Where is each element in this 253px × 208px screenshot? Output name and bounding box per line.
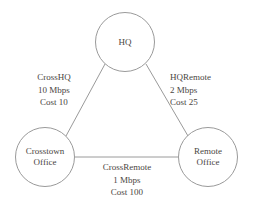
node-crosstown-label-line-1: Office bbox=[34, 157, 57, 168]
edge-label-hqremote-name: HQRemote bbox=[170, 71, 236, 84]
edge-label-crossremote-name: CrossRemote bbox=[85, 161, 169, 174]
edge-label-crossremote: CrossRemote 1 Mbps Cost 100 bbox=[85, 161, 169, 199]
node-remote-label-line-0: Remote bbox=[194, 146, 222, 157]
edge-label-crossremote-bandwidth: 1 Mbps bbox=[85, 174, 169, 187]
edge-label-crosshq: CrossHQ 10 Mbps Cost 10 bbox=[26, 71, 82, 109]
node-crosstown-office[interactable]: Crosstown Office bbox=[15, 127, 75, 187]
edge-label-hqremote-cost: Cost 25 bbox=[170, 96, 236, 109]
edge-label-hqremote: HQRemote 2 Mbps Cost 25 bbox=[170, 71, 236, 109]
edge-label-crosshq-name: CrossHQ bbox=[26, 71, 82, 84]
edge-label-crosshq-cost: Cost 10 bbox=[26, 96, 82, 109]
node-remote-label-line-1: Office bbox=[197, 157, 220, 168]
node-hq-label-line-0: HQ bbox=[119, 37, 132, 48]
network-diagram: HQ Crosstown Office Remote Office CrossH… bbox=[0, 0, 253, 208]
edge-label-hqremote-bandwidth: 2 Mbps bbox=[170, 84, 236, 97]
node-hq[interactable]: HQ bbox=[95, 12, 155, 72]
edge-label-crossremote-cost: Cost 100 bbox=[85, 186, 169, 199]
node-remote-office[interactable]: Remote Office bbox=[178, 127, 238, 187]
edge-label-crosshq-bandwidth: 10 Mbps bbox=[26, 84, 82, 97]
node-crosstown-label-line-0: Crosstown bbox=[26, 146, 65, 157]
